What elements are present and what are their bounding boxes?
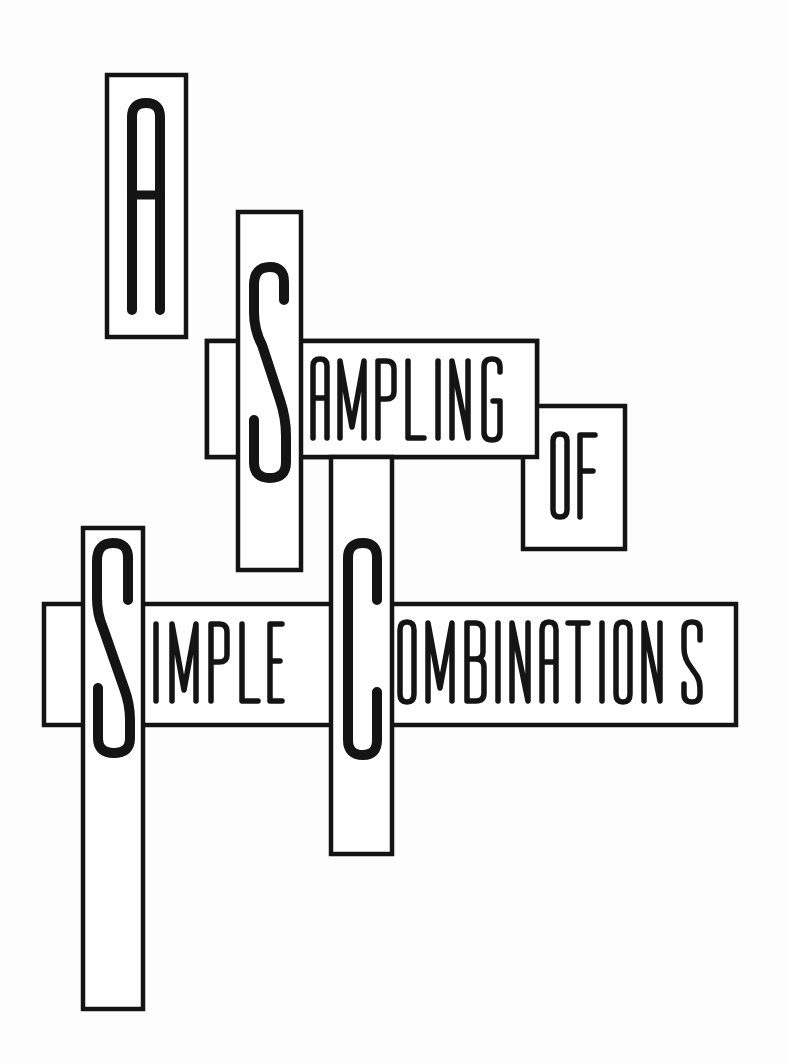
typographic-composition (0, 0, 788, 1063)
box-a (107, 75, 186, 337)
box-s-simple (83, 528, 143, 1009)
box-c-combinations (331, 457, 392, 854)
